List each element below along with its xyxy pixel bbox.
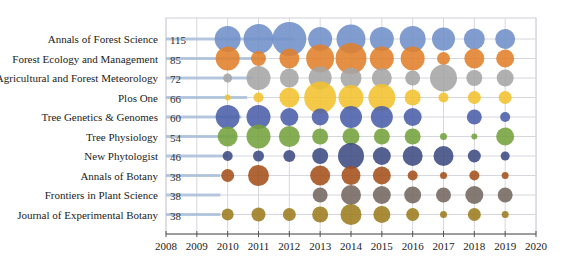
bubble (469, 171, 479, 181)
x-tick-label: 2009 (186, 240, 209, 252)
x-tick-label: 2011 (248, 240, 270, 252)
bubble (468, 150, 481, 163)
bubble (439, 93, 449, 103)
total-value: 38 (170, 171, 182, 183)
bubble (371, 106, 393, 128)
bubble (338, 143, 364, 169)
bubble (222, 209, 234, 221)
bubble (465, 186, 483, 204)
bubble (440, 133, 447, 140)
bubble (312, 129, 328, 145)
bubble (464, 49, 484, 69)
bubble (280, 108, 298, 126)
bubble (248, 165, 269, 186)
journal-label: Forest Ecology and Management (12, 53, 158, 65)
bubble (440, 172, 447, 179)
bubble (254, 93, 264, 103)
bubble (279, 126, 300, 147)
bubble (401, 47, 425, 71)
journal-label: New Phytologist (84, 150, 158, 162)
bubble (468, 91, 481, 104)
total-value: 66 (170, 93, 182, 105)
bubble (340, 106, 362, 128)
bubble (341, 204, 362, 225)
bubble (498, 188, 513, 203)
x-tick-label: 2010 (217, 240, 240, 252)
bubble (497, 70, 514, 87)
bubble (404, 187, 421, 204)
x-tick-label: 2013 (309, 240, 332, 252)
bubble (408, 171, 418, 181)
bubble (466, 70, 482, 86)
bubble (343, 128, 360, 145)
x-tick-label: 2012 (278, 240, 300, 252)
total-value: 38 (170, 210, 182, 222)
bubble (501, 152, 510, 161)
bubble (247, 125, 271, 149)
bubble (502, 211, 509, 218)
bubble (374, 129, 390, 145)
bubble (370, 47, 394, 71)
total-value: 46 (170, 151, 182, 163)
bubble (279, 49, 299, 69)
bubble (218, 127, 238, 147)
bubble (500, 112, 510, 122)
bubble (434, 146, 454, 166)
bubble (283, 150, 295, 162)
bubble (221, 169, 234, 182)
bubble (251, 51, 266, 66)
journal-label: Plos One (118, 92, 158, 104)
x-tick-label: 2016 (402, 240, 425, 252)
bubble (406, 208, 419, 221)
bubble (405, 71, 420, 86)
bubble (496, 50, 514, 68)
bubble (405, 129, 421, 145)
x-tick-label: 2014 (340, 240, 363, 252)
total-value: 85 (170, 54, 182, 66)
journal-labels: Annals of Forest Science115Forest Ecolog… (0, 33, 187, 222)
bubble (464, 29, 485, 50)
total-value: 54 (170, 132, 182, 144)
bubble (216, 105, 240, 129)
bubble (310, 166, 330, 186)
bubble (341, 185, 361, 205)
bubble-chart: Annals of Forest Science115Forest Ecolog… (0, 0, 570, 268)
bubble (432, 28, 455, 51)
bubble (313, 188, 328, 203)
bubble (373, 206, 390, 223)
bubble (373, 167, 391, 185)
x-tick-label: 2018 (463, 240, 486, 252)
bubble (405, 90, 421, 106)
bubble (247, 66, 271, 90)
bubble (440, 211, 447, 218)
bubble (253, 151, 264, 162)
total-value: 72 (170, 73, 181, 85)
journal-label: Agricultural and Forest Meteorology (0, 72, 158, 84)
journal-label: Annals of Forest Science (48, 33, 158, 45)
bubble (283, 208, 296, 221)
bubble (223, 74, 232, 83)
bubble (471, 134, 477, 140)
journal-label: Tree Genetics & Genomes (41, 111, 158, 123)
total-value: 60 (170, 112, 182, 124)
bubble (223, 151, 233, 161)
journal-label: Annals of Botany (80, 170, 158, 182)
bubble (502, 172, 509, 179)
bubble (216, 47, 240, 71)
total-value: 115 (170, 34, 187, 46)
bubble (244, 24, 274, 54)
x-axis: 2008200920102011201220132014201520162017… (155, 231, 548, 252)
bubble (437, 52, 450, 65)
bubble (403, 146, 423, 166)
bubble (312, 207, 328, 223)
x-tick-label: 2015 (371, 240, 394, 252)
bubble (430, 65, 457, 92)
bubble (499, 91, 512, 104)
x-tick-label: 2019 (494, 240, 517, 252)
journal-label: Frontiers in Plant Science (45, 189, 158, 201)
bubble (252, 208, 266, 222)
bubble (496, 128, 514, 146)
bubble (468, 208, 481, 221)
bubble (373, 147, 391, 165)
journal-label: Journal of Experimental Botany (17, 209, 158, 221)
